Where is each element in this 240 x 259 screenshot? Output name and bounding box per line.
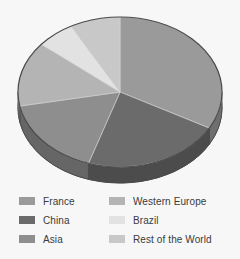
legend-swatch-icon-china <box>19 216 35 224</box>
legend-item-brazil[interactable]: Brazil <box>109 213 240 227</box>
legend-swatch-icon-asia <box>19 235 35 243</box>
legend-swatch-icon-france <box>19 197 35 205</box>
pie-chart-svg <box>0 0 240 192</box>
legend-label-rest-of-the-world: Rest of the World <box>133 234 212 245</box>
legend-item-western-europe[interactable]: Western Europe <box>109 194 240 208</box>
pie-chart-figure: France China Asia Western Europe Brazil <box>0 0 240 259</box>
pie-chart-plot-area <box>0 0 240 192</box>
legend-item-france[interactable]: France <box>19 194 105 208</box>
legend-label-western-europe: Western Europe <box>133 196 206 207</box>
legend-item-china[interactable]: China <box>19 213 105 227</box>
legend-label-asia: Asia <box>43 234 63 245</box>
legend-column-right: Western Europe Brazil Rest of the World <box>105 194 240 256</box>
legend-label-china: China <box>43 215 70 226</box>
legend-item-asia[interactable]: Asia <box>19 232 105 246</box>
legend-swatch-icon-brazil <box>109 216 125 224</box>
legend-label-brazil: Brazil <box>133 215 159 226</box>
legend-swatch-icon-western-europe <box>109 197 125 205</box>
chart-legend: France China Asia Western Europe Brazil <box>0 194 240 256</box>
legend-swatch-icon-rest-of-the-world <box>109 235 125 243</box>
legend-label-france: France <box>43 196 75 207</box>
legend-item-rest-of-the-world[interactable]: Rest of the World <box>109 232 240 246</box>
legend-column-left: France China Asia <box>0 194 105 256</box>
